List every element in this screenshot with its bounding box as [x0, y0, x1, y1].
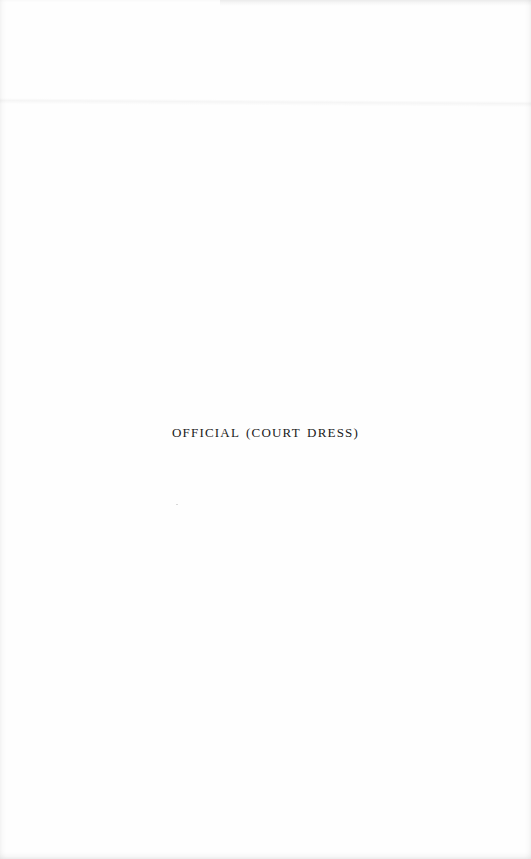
- scan-speck: [176, 504, 178, 505]
- page-crease: [0, 98, 531, 107]
- book-page: OFFICIAL (COURT DRESS): [0, 0, 531, 859]
- scan-edge-shadow: [220, 0, 531, 6]
- plate-caption: OFFICIAL (COURT DRESS): [0, 425, 531, 441]
